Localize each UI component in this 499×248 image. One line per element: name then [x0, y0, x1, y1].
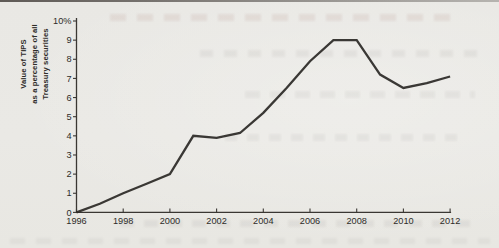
x-tick-label: 2008: [346, 216, 366, 226]
y-tick-label: 5: [66, 112, 71, 122]
x-tick-label: 2004: [253, 216, 273, 226]
scanned-chart-figure: Value of TIPS as a percentage of all Tre…: [0, 0, 499, 248]
y-tick-label: 1: [66, 188, 71, 198]
x-tick-label: 2002: [206, 216, 226, 226]
y-tick-label: 9: [66, 35, 71, 45]
axes-lines: [77, 18, 452, 212]
tips-percentage-line-series: [77, 40, 451, 212]
chart-canvas: 012345678910%199619982000200220042006200…: [0, 0, 499, 248]
y-tick-label: 4: [66, 131, 71, 141]
y-tick-label: 2: [66, 169, 71, 179]
x-tick-label: 1996: [66, 216, 86, 226]
y-tick-label: 6: [66, 93, 71, 103]
x-tick-label: 2006: [300, 216, 320, 226]
y-tick-label: 7: [66, 74, 71, 84]
x-tick-label: 2012: [440, 216, 460, 226]
x-tick-label: 2010: [393, 216, 413, 226]
y-tick-label: 8: [66, 54, 71, 64]
x-tick-label: 1998: [113, 216, 133, 226]
x-tick-label: 2000: [160, 216, 180, 226]
y-tick-label: 3: [66, 150, 71, 160]
y-tick-label: 10%: [53, 16, 71, 26]
